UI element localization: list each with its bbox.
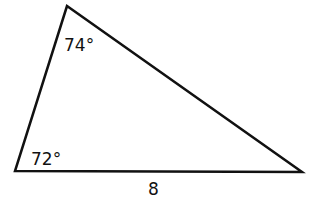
angle-label-bottom-left: 72° [31, 149, 61, 169]
angle-label-top: 74° [64, 35, 94, 55]
triangle-diagram: 74° 72° 8 [0, 0, 311, 209]
side-label-bottom: 8 [148, 179, 159, 199]
triangle-outline [15, 6, 302, 172]
